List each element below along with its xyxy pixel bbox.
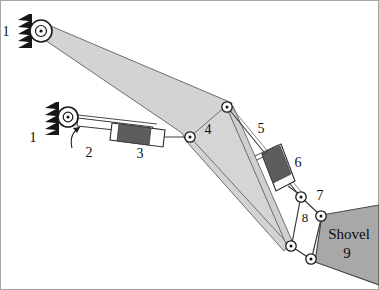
linkage-diagram: 1 1 2 3 4 5 6 7 8 Shovel 9 xyxy=(0,0,379,290)
ground-hub-upper-center xyxy=(39,29,42,32)
label-cylinder-3: 3 xyxy=(137,146,144,161)
joint-E xyxy=(296,192,306,202)
label-boom-4: 4 xyxy=(205,122,212,137)
joint-H xyxy=(306,254,316,264)
label-link-8: 8 xyxy=(302,210,309,225)
figure-root: 1 1 2 3 4 5 6 7 8 Shovel 9 xyxy=(0,0,379,290)
label-link-5: 5 xyxy=(258,121,265,136)
joint-D xyxy=(222,102,232,112)
label-rod-2: 2 xyxy=(86,145,93,160)
label-cylinder-6: 6 xyxy=(295,155,302,170)
cylinder-3-piston xyxy=(117,124,151,145)
label-shovel-name: Shovel xyxy=(328,226,370,242)
joint-F xyxy=(316,211,326,221)
joint-G xyxy=(286,241,296,251)
label-link-7: 7 xyxy=(317,188,324,203)
label-shovel-number: 9 xyxy=(343,245,351,261)
ground-hub-lower-center xyxy=(67,116,70,119)
label-ground-lower: 1 xyxy=(30,130,37,145)
joint-C xyxy=(185,132,195,142)
label-ground-upper: 1 xyxy=(3,24,10,39)
